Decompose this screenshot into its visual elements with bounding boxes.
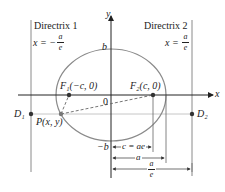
directrix-1-fraction: a e [57, 33, 64, 52]
y-axis-label: y [106, 9, 110, 19]
directrix-2-equation: x = [165, 38, 179, 48]
focus-1-point [67, 93, 71, 97]
focal-radius-1 [61, 95, 69, 114]
x-axis-label: x [215, 89, 219, 99]
dim-a-over-e-label: a e [147, 160, 156, 179]
focus-2-point [151, 93, 155, 97]
point-d1 [29, 112, 33, 116]
origin-label: 0 [103, 97, 108, 107]
neg-b-label: −b [97, 142, 109, 152]
dim-c-label: c = ae [121, 142, 146, 151]
b-label: b [102, 42, 107, 52]
point-p-label: P(x, y) [36, 117, 63, 127]
directrix-1-equation: x = − [33, 38, 56, 48]
directrix-2-fraction: a e [182, 33, 189, 52]
point-d2 [190, 112, 194, 116]
point-d1-label: D₁ [14, 109, 25, 119]
directrix-1-title: Directrix 1 [34, 21, 78, 31]
directrix-2-title: Directrix 2 [144, 21, 188, 31]
dim-a-label: a [135, 153, 142, 162]
point-d2-label: D₂ [197, 109, 208, 119]
focus-1-label: F₁(−c, 0) [60, 81, 97, 91]
focus-2-label: F₂(c, 0) [130, 81, 161, 91]
